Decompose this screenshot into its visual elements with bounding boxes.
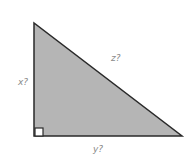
label-z: z?: [110, 53, 121, 63]
label-y: y?: [92, 144, 103, 154]
right-triangle: [34, 23, 182, 136]
triangle-diagram: x? z? y?: [0, 0, 195, 163]
right-angle-marker: [35, 128, 43, 136]
label-x: x?: [17, 77, 28, 87]
